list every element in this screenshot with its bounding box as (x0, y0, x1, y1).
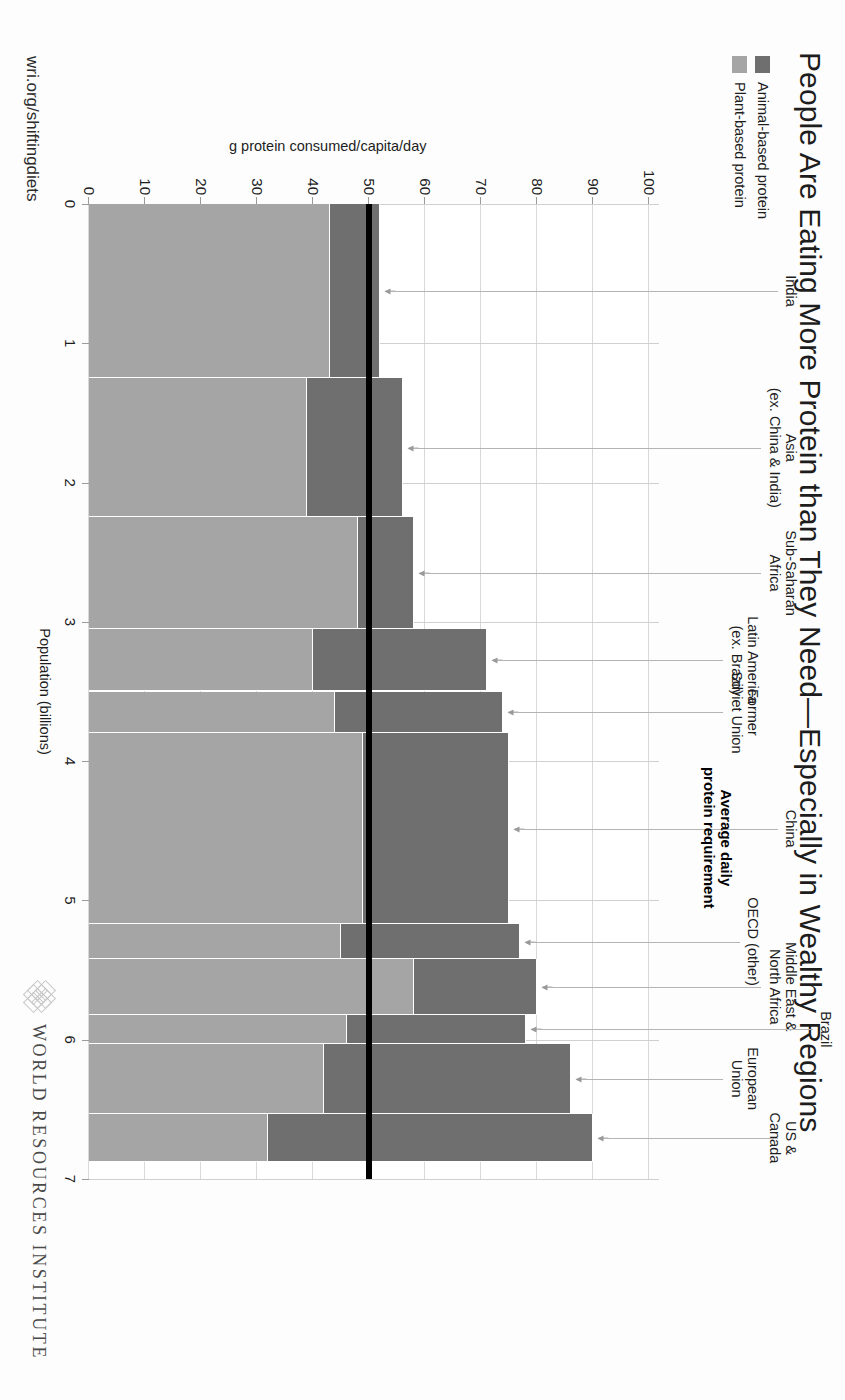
leader-line (526, 942, 740, 943)
legend-label-plant: Plant-based protein (732, 82, 748, 208)
y-axis-tick-label: 20 (193, 178, 210, 195)
leader-line (420, 573, 761, 574)
leader-line (493, 660, 723, 661)
x-axis-tick-label: 1 (62, 339, 79, 347)
y-axis-tick-label: 100 (641, 170, 658, 195)
category-label: Former Soviet Union (729, 671, 761, 753)
bar-segment-plant[interactable] (89, 1015, 347, 1044)
leader-line (543, 987, 761, 988)
category-label: Middle East & North Africa (767, 942, 799, 1031)
leader-arrow (526, 941, 536, 942)
legend-item-plant: Plant-based protein (732, 56, 748, 219)
bar-segment-plant[interactable] (89, 1114, 268, 1163)
category-label: OECD (other) (745, 897, 761, 986)
plot-area: 0102030405060708090100 01234567 IndiaAsi… (89, 204, 649, 1179)
y-axis-tick-label: 30 (249, 178, 266, 195)
bar-segment-plant[interactable] (89, 204, 330, 378)
bar-segment-animal[interactable] (414, 959, 537, 1015)
chart-stage: People Are Eating More Protein than They… (0, 0, 845, 1400)
bar-segment-plant[interactable] (89, 517, 358, 628)
x-axis-tick-label: 6 (62, 1036, 79, 1044)
bar-segment-animal[interactable] (268, 1114, 593, 1163)
leader-line (409, 448, 761, 449)
bar-segment-plant[interactable] (89, 692, 335, 734)
category-label: India (783, 275, 799, 306)
gridline-y (648, 204, 649, 1179)
x-axis-tick-mark (82, 622, 89, 623)
category-label: European Union (729, 1047, 761, 1110)
leader-line (577, 1079, 723, 1080)
chart-title: People Are Eating More Protein than They… (793, 52, 827, 1282)
x-axis-tick-mark (82, 900, 89, 901)
chart-frame: People Are Eating More Protein than They… (0, 0, 845, 1400)
gridline-x (89, 1179, 659, 1180)
bar-segment-animal[interactable] (335, 692, 503, 734)
bar-segment-plant[interactable] (89, 1044, 324, 1114)
y-axis-tick-mark (536, 197, 537, 204)
x-axis-tick-label: 5 (62, 896, 79, 904)
leader-line (386, 291, 778, 292)
y-axis-tick-label: 60 (417, 178, 434, 195)
bar-segment-animal[interactable] (347, 1015, 526, 1044)
y-axis-tick-mark (480, 197, 481, 204)
y-axis-tick-mark (200, 197, 201, 204)
legend-item-animal: Animal-based protein (755, 56, 771, 219)
requirement-line (366, 204, 372, 1179)
leader-arrow (515, 828, 525, 829)
y-axis-label: g protein consumed/capita/day (229, 138, 427, 154)
y-axis-tick-mark (312, 197, 313, 204)
category-label: Asia (ex. China & India) (767, 388, 799, 508)
leader-arrow (543, 986, 553, 987)
x-axis-tick-mark (82, 1179, 89, 1180)
requirement-annotation: Average daily protein requirement (701, 767, 735, 909)
leader-arrow (386, 291, 396, 292)
x-axis-tick-label: 2 (62, 478, 79, 486)
bar-segment-animal[interactable] (330, 204, 380, 378)
bar-segment-animal[interactable] (324, 1044, 570, 1114)
x-axis-tick-mark (82, 483, 89, 484)
x-axis-tick-label: 3 (62, 618, 79, 626)
y-axis-tick-label: 10 (137, 178, 154, 195)
wri-brand: WORLD RESOURCES INSTITUTE (24, 982, 54, 1360)
legend: Animal-based protein Plant-based protein (725, 56, 771, 219)
category-label: China (783, 810, 799, 848)
y-axis-tick-label: 80 (529, 178, 546, 195)
y-axis-tick-label: 70 (473, 178, 490, 195)
bar-segment-animal[interactable] (307, 378, 402, 517)
y-axis-tick-mark (592, 197, 593, 204)
y-axis-tick-mark (256, 197, 257, 204)
y-axis-tick-label: 0 (81, 187, 98, 195)
y-axis-tick-mark (368, 197, 369, 204)
x-axis-tick-label: 7 (62, 1175, 79, 1183)
bar-segment-plant[interactable] (89, 378, 307, 517)
category-label: Brazil (818, 1011, 834, 1047)
category-label: Sub-Saharan Africa (767, 530, 799, 615)
bar-segment-plant[interactable] (89, 924, 341, 959)
bar-segment-plant[interactable] (89, 629, 313, 692)
y-axis-tick-mark (88, 197, 89, 204)
x-axis-tick-mark (82, 343, 89, 344)
y-axis-tick-label: 40 (305, 178, 322, 195)
y-axis-tick-label: 90 (585, 178, 602, 195)
x-axis-tick-label: 4 (62, 757, 79, 765)
legend-swatch-plant (733, 56, 748, 73)
x-axis-tick-mark (82, 1040, 89, 1041)
x-axis-tick-mark (82, 761, 89, 762)
leader-line (509, 712, 723, 713)
leader-line (532, 1029, 813, 1030)
leader-arrow (419, 573, 429, 574)
leader-arrow (576, 1078, 586, 1079)
bar-segment-plant[interactable] (89, 733, 363, 924)
bar-segment-animal[interactable] (313, 629, 487, 692)
bar-segment-animal[interactable] (363, 733, 509, 924)
gridline-y (592, 204, 593, 1179)
footer-url[interactable]: wri.org/shiftingdiets (22, 56, 42, 202)
y-axis-tick-mark (424, 197, 425, 204)
leader-arrow (408, 447, 418, 448)
x-axis-tick-label: 0 (62, 200, 79, 208)
legend-swatch-animal (756, 56, 771, 73)
x-axis-label: Population (billions) (37, 628, 53, 755)
y-axis-tick-label: 50 (361, 178, 378, 195)
y-axis-tick-mark (648, 197, 649, 204)
leader-arrow (599, 1137, 609, 1138)
